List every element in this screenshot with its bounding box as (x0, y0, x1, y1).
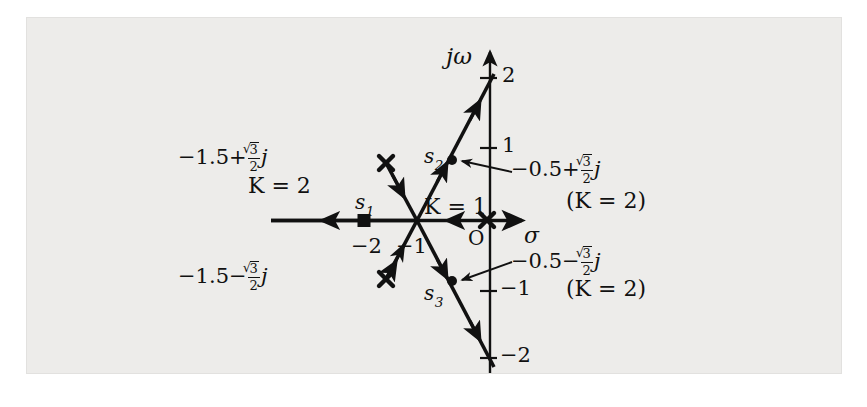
callout-label-s2-suffix: j (594, 157, 601, 181)
figure-root: jω σ O 2 1 −1 −2 −2 −1 −1.5+32j −1.5−32j… (0, 0, 867, 407)
root-label-s2: s2 (424, 146, 443, 171)
origin-label: O (468, 228, 484, 248)
pole-upper-sqrt: 3 (250, 142, 259, 157)
callout-s2-sqrt: 3 (583, 154, 592, 169)
pole-lower-label-suffix: j (261, 264, 268, 288)
callout-label-s3: −0.5−32j (511, 247, 600, 278)
pole-lower-sqrt: 3 (250, 261, 259, 276)
root-label-s1: s1 (355, 192, 374, 217)
root-label-s3-sub: 3 (435, 294, 444, 310)
callout-label-s3-prefix: −0.5− (511, 249, 580, 273)
pole-upper-label-suffix: j (261, 145, 268, 169)
gain-label-s2: (K = 2) (566, 190, 646, 212)
imag-tick-label-minus-1: −1 (500, 278, 531, 299)
root-label-s3-base: s (424, 281, 434, 305)
pole-upper-fraction: 32 (248, 142, 260, 173)
callout-s2-denominator: 2 (581, 171, 593, 186)
gain-label-k2-left: K = 2 (248, 175, 311, 197)
callout-label-s2-prefix: −0.5+ (511, 157, 580, 181)
pole-marker-upper (379, 156, 393, 170)
root-label-s1-sub: 1 (366, 203, 375, 219)
pole-marker-lower (379, 272, 393, 286)
root-label-s2-base: s (424, 144, 434, 168)
pole-lower-fraction: 32 (248, 261, 260, 292)
gain-label-k1-center: K = 1 (424, 196, 487, 218)
root-label-s1-base: s (355, 190, 365, 214)
root-label-s3: s3 (424, 283, 443, 308)
real-axis-label: σ (524, 225, 539, 247)
root-marker-s3 (447, 276, 457, 286)
callout-s3-sqrt: 3 (583, 246, 592, 261)
pole-lower-label: −1.5−32j (178, 262, 267, 293)
real-tick-label-minus-1: −1 (396, 236, 427, 257)
pole-upper-label: −1.5+32j (178, 143, 267, 174)
pole-lower-label-prefix: −1.5− (178, 264, 247, 288)
imag-tick-label-1: 1 (502, 135, 515, 156)
callout-s3-fraction: 32 (581, 246, 593, 277)
imaginary-axis-label: jω (446, 45, 472, 68)
pole-upper-label-prefix: −1.5+ (178, 145, 247, 169)
callout-line-s2 (462, 161, 512, 172)
callout-label-s2: −0.5+32j (511, 155, 600, 186)
imag-tick-label-minus-2: −2 (500, 345, 531, 366)
locus-branch-from-upper-pole (386, 163, 417, 221)
real-tick-label-minus-2: −2 (351, 236, 382, 257)
root-marker-s2 (447, 155, 457, 165)
root-label-s2-sub: 2 (435, 157, 444, 173)
pole-lower-denominator: 2 (248, 278, 260, 293)
pole-upper-denominator: 2 (248, 159, 260, 174)
callout-s2-fraction: 32 (581, 154, 593, 185)
callout-label-s3-suffix: j (594, 249, 601, 273)
gain-label-s3: (K = 2) (566, 278, 646, 300)
imag-tick-label-2: 2 (502, 65, 515, 86)
